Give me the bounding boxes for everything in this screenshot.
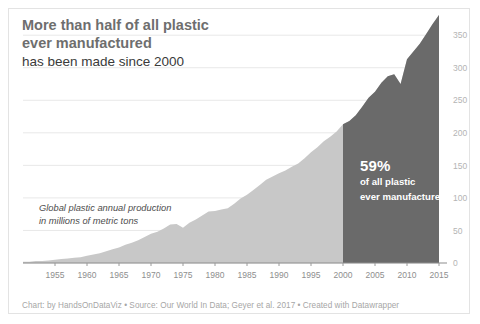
x-axis-tick-label: 2000	[334, 270, 353, 280]
chart-footer-credits: Chart: by HandsOnDataViz • Source: Our W…	[22, 301, 399, 310]
annotation-line-2: ever manufactured	[360, 191, 465, 203]
x-axis-tick-label: 1985	[238, 270, 257, 280]
y-axis-tick-label: 250	[453, 95, 467, 105]
annotation-line-1: of all plastic	[360, 176, 465, 188]
x-axis-tick-label: 1995	[302, 270, 321, 280]
series-description-line-2: in millions of metric tons	[39, 216, 138, 226]
highlight-annotation: 59% of all plastic ever manufactured	[360, 157, 465, 203]
y-axis-ticks: 050100150200250300350	[453, 30, 467, 268]
x-axis-ticks: 1955196019651970197519801985199019952000…	[46, 263, 449, 280]
annotation-percent: 59%	[360, 157, 465, 174]
x-axis-tick-label: 1990	[270, 270, 289, 280]
y-axis-tick-label: 0	[453, 258, 458, 268]
y-axis-tick-label: 200	[453, 128, 467, 138]
chart-frame: More than half of all plastic ever manuf…	[8, 8, 470, 314]
x-axis-tick-label: 1965	[110, 270, 129, 280]
y-axis-tick-label: 350	[453, 30, 467, 40]
y-axis-tick-label: 300	[453, 63, 467, 73]
series-description-line-1: Global plastic annual production	[39, 203, 171, 213]
x-axis-tick-label: 1960	[78, 270, 97, 280]
area-series-dark-highlight	[343, 15, 439, 263]
x-axis-tick-label: 1980	[206, 270, 225, 280]
x-axis-tick-label: 1975	[174, 270, 193, 280]
x-axis-tick-label: 1955	[46, 270, 65, 280]
x-axis-tick-label: 2015	[430, 270, 449, 280]
x-axis-tick-label: 2010	[398, 270, 417, 280]
series-description: Global plastic annual production in mill…	[39, 202, 249, 229]
y-axis-tick-label: 50	[453, 226, 463, 236]
x-axis-tick-label: 1970	[142, 270, 161, 280]
x-axis-tick-label: 2005	[366, 270, 385, 280]
